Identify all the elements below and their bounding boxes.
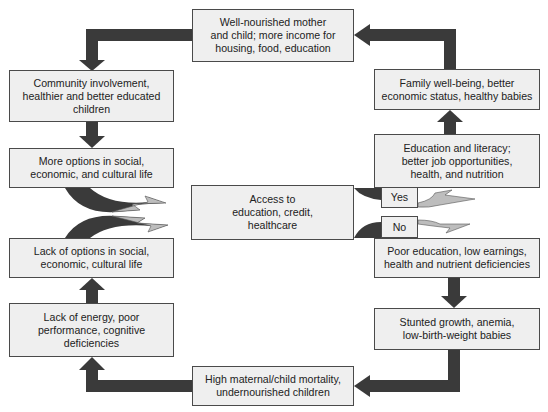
arrow-bottom-to-energy: [92, 368, 192, 386]
node-lack-of-options: Lack of options in social, economic, cul…: [9, 238, 174, 278]
arrowhead-left-icon: [354, 24, 370, 46]
arrowhead-left-icon: [354, 375, 370, 397]
arrow-stunted-to-bottom: [368, 350, 454, 386]
curve-no: [354, 222, 381, 238]
arrow-yes-to-education: [418, 190, 475, 207]
node-well-nourished: Well-nourished mother and child; more in…: [192, 9, 354, 62]
node-access: Access to education, credit, healthcare: [191, 185, 354, 240]
node-family-well-being: Family well-being, better economic statu…: [374, 69, 540, 110]
node-high-mortality: High maternal/child mortality, undernour…: [192, 366, 354, 406]
arrowhead-up-icon: [437, 110, 463, 122]
node-community-involvement: Community involvement, healthier and bet…: [9, 70, 174, 122]
decision-no: No: [381, 216, 418, 238]
arrowhead-down-icon: [441, 296, 467, 308]
arrow-no-to-poor: [418, 220, 470, 233]
node-more-options: More options in social, economic, and cu…: [9, 148, 174, 188]
node-poor-education: Poor education, low earnings, health and…: [374, 238, 540, 278]
decision-yes: Yes: [381, 185, 418, 208]
arrowhead-up-icon: [79, 278, 105, 290]
arrowhead-down-icon: [79, 136, 105, 148]
node-education-literacy: Education and literacy; better job oppor…: [374, 134, 540, 188]
arrow-top-to-community: [92, 35, 192, 62]
node-stunted-growth: Stunted growth, anemia, low-birth-weight…: [374, 308, 540, 350]
node-lack-of-energy: Lack of energy, poor performance, cognit…: [9, 303, 174, 357]
curve-yes: [354, 188, 381, 200]
arrow-family-to-top: [368, 35, 450, 69]
arrowhead-up-icon: [79, 357, 105, 370]
